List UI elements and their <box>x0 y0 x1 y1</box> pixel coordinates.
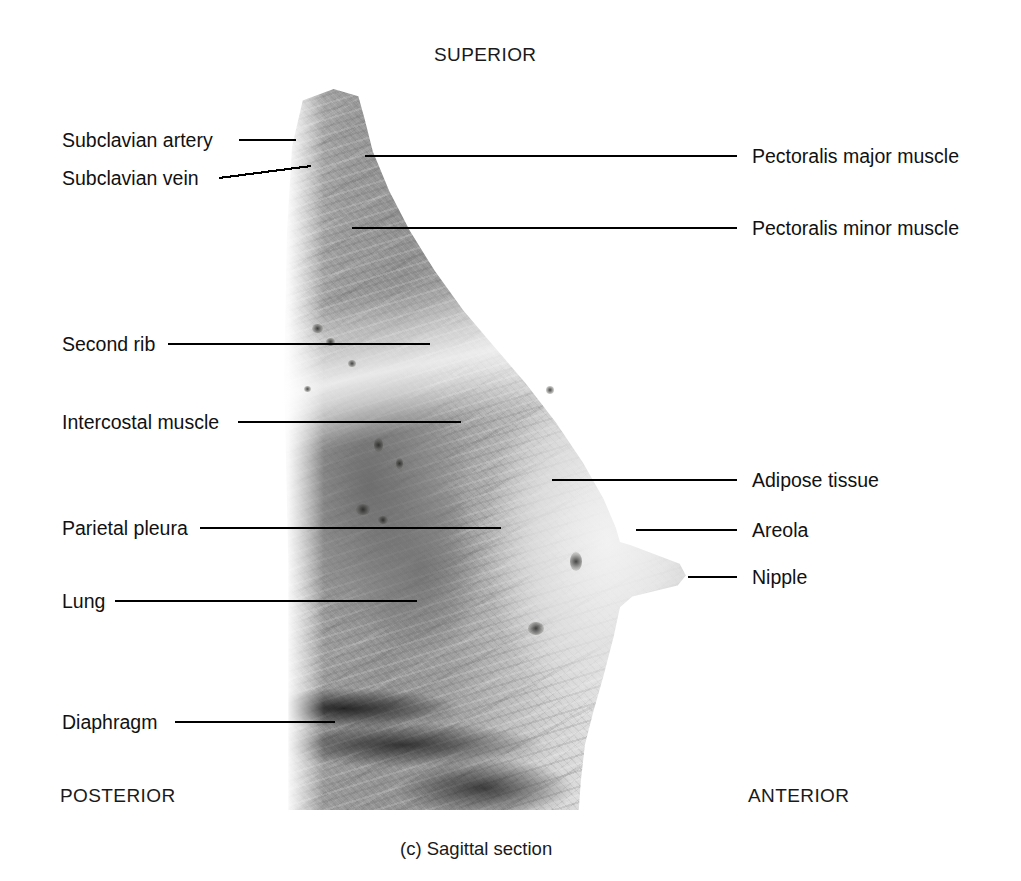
orientation-label-anterior: ANTERIOR <box>748 785 849 807</box>
label-nipple: Nipple <box>752 568 807 588</box>
label-adipose-tissue: Adipose tissue <box>752 471 879 491</box>
label-pectoralis-minor-muscle: Pectoralis minor muscle <box>752 219 959 239</box>
label-subclavian-vein: Subclavian vein <box>62 169 199 189</box>
label-parietal-pleura: Parietal pleura <box>62 519 188 539</box>
label-areola: Areola <box>752 521 808 541</box>
label-lung: Lung <box>62 592 105 612</box>
tissue-pocket <box>546 386 554 394</box>
label-subclavian-artery: Subclavian artery <box>62 131 213 151</box>
anatomy-figure: SUPERIOR POSTERIOR ANTERIOR Subcl <box>0 0 1021 881</box>
label-pectoralis-major-muscle: Pectoralis major muscle <box>752 147 959 167</box>
label-diaphragm: Diaphragm <box>62 713 157 733</box>
label-second-rib: Second rib <box>62 335 155 355</box>
specimen-image <box>278 86 690 810</box>
orientation-label-superior: SUPERIOR <box>434 44 536 66</box>
figure-caption: (c) Sagittal section <box>400 838 552 860</box>
label-intercostal-muscle: Intercostal muscle <box>62 413 219 433</box>
specimen-photograph <box>278 86 690 810</box>
orientation-label-posterior: POSTERIOR <box>60 785 176 807</box>
